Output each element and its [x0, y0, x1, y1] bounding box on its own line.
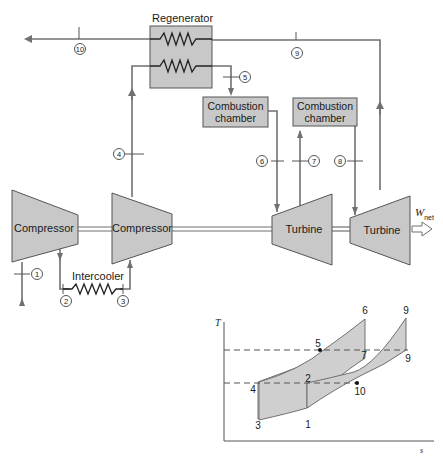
combustion-chamber-1-label-line2: chamber [215, 112, 256, 124]
regenerator-label: Regenerator [152, 12, 213, 24]
state-9-label: 9 [295, 49, 299, 58]
compressor-1: Compressor [12, 190, 78, 262]
state-3-label: 3 [121, 297, 125, 306]
combustion-chamber-2-label-line2: chamber [305, 112, 346, 124]
ts-label-2: 2 [305, 373, 311, 384]
state-10-label: 10 [76, 45, 84, 54]
intercooler-coil [63, 284, 123, 294]
ts-label-9: 9 [405, 353, 411, 364]
ts-label-9-top: 9 [403, 305, 409, 316]
combustion-chamber-1-label-line1: Combustion [207, 100, 263, 112]
compressor-2: Compressor [112, 193, 172, 264]
state-6-label: 6 [260, 157, 264, 166]
ts-label-5: 5 [315, 338, 321, 349]
turbine-2-label: Turbine [364, 224, 401, 236]
turbine-1: Turbine [272, 194, 332, 265]
combustion-chamber-1: Combustion chamber [203, 97, 268, 127]
ts-y-axis-label: T [215, 317, 222, 328]
gas-turbine-diagram: Wnet Regenerator Combustion chamber Comb… [0, 0, 443, 464]
ts-label-4: 4 [250, 384, 256, 395]
turbine-2: Turbine [350, 196, 410, 265]
state-4-label: 4 [117, 150, 121, 159]
work-output-arrow [412, 222, 432, 236]
combustion-chamber-2-label-line1: Combustion [297, 100, 353, 112]
ts-diagram: T s 3 4 1 2 5 6 7 9 9 10 [215, 305, 434, 455]
ts-label-1: 1 [305, 419, 311, 430]
state-2-label: 2 [64, 297, 68, 306]
ts-label-3: 3 [255, 420, 261, 431]
line-4 [132, 66, 150, 197]
intercooler: Intercooler [63, 270, 124, 294]
compressor-1-label: Compressor [14, 222, 74, 234]
state-8-label: 8 [338, 157, 342, 166]
state-5-label: 5 [243, 73, 247, 82]
intercooler-label: Intercooler [72, 270, 124, 282]
ts-point-10-dot [355, 381, 359, 385]
ts-x-axis-label: s [420, 446, 423, 455]
work-output-label: Wnet [415, 206, 434, 221]
compressor-2-label: Compressor [112, 222, 172, 234]
combustion-chamber-2: Combustion chamber [293, 98, 357, 126]
regenerator: Regenerator [150, 12, 213, 88]
ts-label-7: 7 [361, 350, 367, 361]
ts-label-10: 10 [354, 386, 366, 397]
turbine-1-label: Turbine [286, 223, 323, 235]
line-2 [60, 242, 70, 289]
state-1-label: 1 [35, 270, 39, 279]
state-7-label: 7 [312, 157, 316, 166]
ts-label-6: 6 [362, 305, 368, 316]
